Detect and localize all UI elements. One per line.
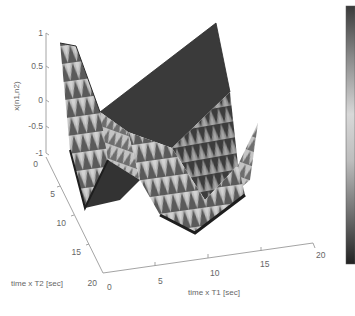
y-axis-label: time x T2 [sec] <box>11 279 63 288</box>
surface-plot: 1 0.5 0 -0.5 -1 x(n1,n2) 0 5 10 15 20 ti… <box>0 0 355 316</box>
surface <box>60 23 258 233</box>
z-tick-1: 1 <box>38 28 43 38</box>
x-tick-10: 10 <box>210 268 220 278</box>
z-axis-label: x(n1,n2) <box>12 81 21 111</box>
y-tick-15: 15 <box>72 247 82 257</box>
y-tick-0: 0 <box>33 159 38 169</box>
z-tick-neg0.5: -0.5 <box>28 121 43 131</box>
y-tick-10: 10 <box>57 218 67 228</box>
x-axis: 0 5 10 15 20 time x T1 [sec] <box>103 243 326 297</box>
y-tick-5: 5 <box>50 189 55 199</box>
x-axis-label: time x T1 [sec] <box>188 288 240 297</box>
z-tick-neg1: -1 <box>35 148 43 158</box>
z-tick-0: 0 <box>38 95 43 105</box>
x-tick-0: 0 <box>107 282 112 292</box>
y-tick-20: 20 <box>88 278 98 288</box>
colorbar <box>346 6 355 264</box>
z-axis: 1 0.5 0 -0.5 -1 x(n1,n2) <box>12 28 49 158</box>
z-tick-0.5: 0.5 <box>31 61 43 71</box>
x-tick-20: 20 <box>316 250 326 260</box>
x-tick-15: 15 <box>260 259 270 269</box>
x-tick-5: 5 <box>158 276 163 286</box>
